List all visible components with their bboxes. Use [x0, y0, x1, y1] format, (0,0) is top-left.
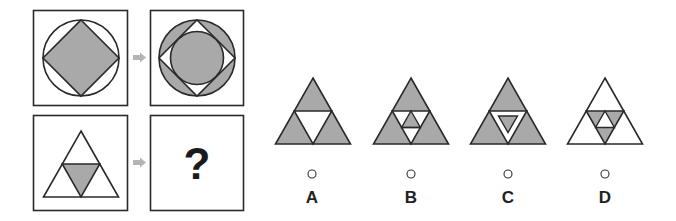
query-source-panel	[34, 116, 128, 211]
puzzle-canvas: ? A B C D	[0, 0, 676, 221]
option-d-radio[interactable]	[601, 170, 609, 178]
option-a-figure[interactable]	[276, 78, 351, 144]
option-a-label: A	[306, 188, 318, 207]
option-b-radio[interactable]	[407, 170, 415, 178]
answer-placeholder-panel: ?	[151, 116, 244, 211]
option-d-label: D	[599, 188, 611, 207]
option-c-radio[interactable]	[504, 170, 512, 178]
option-c-label: C	[502, 188, 514, 207]
arrow-icon	[133, 158, 146, 168]
option-b-label: B	[405, 188, 417, 207]
option-b-figure[interactable]	[374, 78, 449, 144]
option-a-radio[interactable]	[308, 170, 316, 178]
question-mark: ?	[184, 139, 211, 188]
option-c-figure[interactable]	[471, 78, 546, 144]
arrow-icon	[133, 53, 146, 63]
option-d-figure[interactable]	[568, 78, 643, 144]
example-source-panel	[34, 11, 128, 106]
example-target-panel	[151, 11, 244, 106]
